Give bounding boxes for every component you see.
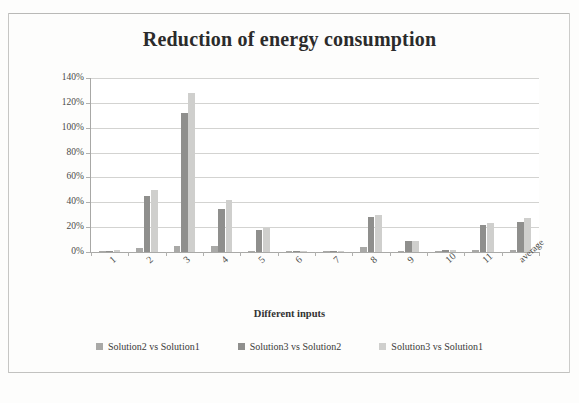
bar bbox=[323, 251, 330, 252]
legend-label: Solution3 vs Solution1 bbox=[391, 341, 483, 352]
bar-group bbox=[510, 78, 531, 252]
bar bbox=[114, 250, 121, 252]
bar-group bbox=[398, 78, 419, 252]
x-tick-mark bbox=[390, 252, 391, 256]
bar bbox=[368, 217, 375, 252]
legend-item: Solution3 vs Solution2 bbox=[238, 341, 342, 352]
legend-item: Solution2 vs Solution1 bbox=[96, 341, 200, 352]
legend-swatch bbox=[238, 343, 245, 350]
bar bbox=[472, 250, 479, 252]
y-tick-label: 20% bbox=[38, 221, 84, 231]
figure-border-right bbox=[569, 13, 570, 373]
x-axis-label: Different inputs bbox=[0, 308, 579, 319]
bar bbox=[181, 113, 188, 252]
x-tick-mark bbox=[464, 252, 465, 256]
bar-group bbox=[472, 78, 493, 252]
plot-area bbox=[91, 78, 539, 252]
legend-swatch bbox=[379, 343, 386, 350]
x-tick-mark bbox=[539, 252, 540, 256]
bar bbox=[99, 251, 106, 252]
bar-group bbox=[99, 78, 120, 252]
x-tick-label: 1 bbox=[107, 254, 118, 266]
bar bbox=[517, 222, 524, 252]
y-tick-label: 0% bbox=[38, 246, 84, 256]
bar bbox=[286, 251, 293, 252]
legend-label: Solution3 vs Solution2 bbox=[250, 341, 342, 352]
x-tick-label: 2 bbox=[144, 254, 155, 266]
bar-group bbox=[360, 78, 381, 252]
bar bbox=[293, 251, 300, 252]
bar bbox=[218, 209, 225, 253]
bar-group bbox=[136, 78, 157, 252]
bar bbox=[226, 200, 233, 252]
bar bbox=[151, 190, 158, 252]
bar bbox=[330, 251, 337, 252]
bar bbox=[188, 93, 195, 252]
bar bbox=[398, 251, 405, 252]
bar bbox=[174, 246, 181, 252]
bar bbox=[211, 246, 218, 252]
y-tick-label: 100% bbox=[38, 122, 84, 132]
bar bbox=[405, 241, 412, 252]
chart-title: Reduction of energy consumption bbox=[0, 28, 579, 51]
bar bbox=[360, 247, 367, 252]
legend-swatch bbox=[96, 343, 103, 350]
legend-label: Solution2 vs Solution1 bbox=[108, 341, 200, 352]
y-tick-label: 40% bbox=[38, 196, 84, 206]
figure-border-left bbox=[8, 13, 9, 373]
y-tick-label: 80% bbox=[38, 147, 84, 157]
x-tick-mark bbox=[427, 252, 428, 256]
bar bbox=[300, 251, 307, 252]
x-tick-mark bbox=[278, 252, 279, 256]
x-tick-mark bbox=[240, 252, 241, 256]
bar bbox=[375, 215, 382, 252]
x-tick-label: 7 bbox=[331, 254, 342, 266]
x-tick-label: 4 bbox=[219, 254, 230, 266]
figure-border-bottom bbox=[8, 372, 570, 373]
bar bbox=[338, 251, 345, 252]
x-tick-label: 9 bbox=[405, 254, 416, 266]
bar bbox=[144, 196, 151, 252]
bar bbox=[480, 225, 487, 252]
x-tick-label: 3 bbox=[181, 254, 192, 266]
x-tick-mark bbox=[352, 252, 353, 256]
bar-group bbox=[286, 78, 307, 252]
bar-group bbox=[435, 78, 456, 252]
x-tick-mark bbox=[91, 252, 92, 256]
x-tick-mark bbox=[502, 252, 503, 256]
bar-group bbox=[211, 78, 232, 252]
bar bbox=[487, 223, 494, 252]
bar-group bbox=[248, 78, 269, 252]
chart-legend: Solution2 vs Solution1Solution3 vs Solut… bbox=[0, 341, 579, 352]
x-tick-label: 6 bbox=[293, 254, 304, 266]
bar-group bbox=[174, 78, 195, 252]
x-tick-mark bbox=[315, 252, 316, 256]
x-tick-label: 8 bbox=[368, 254, 379, 266]
figure-border-top bbox=[8, 13, 570, 14]
chart-figure: Reduction of energy consumption Percenta… bbox=[0, 0, 579, 403]
bar bbox=[510, 250, 517, 252]
bar bbox=[435, 251, 442, 252]
bar-group bbox=[323, 78, 344, 252]
bar bbox=[136, 248, 143, 252]
y-tick-label: 60% bbox=[38, 171, 84, 181]
bar bbox=[248, 251, 255, 252]
y-tick-label: 140% bbox=[38, 72, 84, 82]
bar bbox=[256, 230, 263, 252]
x-tick-mark bbox=[166, 252, 167, 256]
y-tick-label: 120% bbox=[38, 97, 84, 107]
bar bbox=[106, 251, 113, 252]
x-tick-label: 5 bbox=[256, 254, 267, 266]
bar bbox=[412, 241, 419, 252]
bar bbox=[263, 228, 270, 252]
x-tick-mark bbox=[128, 252, 129, 256]
legend-item: Solution3 vs Solution1 bbox=[379, 341, 483, 352]
x-tick-mark bbox=[203, 252, 204, 256]
